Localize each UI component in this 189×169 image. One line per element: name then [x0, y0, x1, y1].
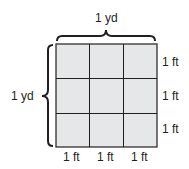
right-label-row-1: 1 ft: [162, 56, 179, 68]
bottom-label-col-3: 1 ft: [131, 151, 148, 163]
left-brace-icon: [42, 45, 53, 146]
top-label: 1 yd: [95, 12, 118, 24]
grid-square: [56, 44, 157, 147]
top-brace-icon: [57, 30, 155, 41]
left-label: 1 yd: [11, 90, 34, 102]
right-label-row-2: 1 ft: [162, 90, 179, 102]
bottom-label-col-2: 1 ft: [97, 151, 114, 163]
right-label-row-3: 1 ft: [162, 123, 179, 135]
bottom-label-col-1: 1 ft: [63, 151, 80, 163]
square-grid-diagram: [0, 0, 189, 169]
